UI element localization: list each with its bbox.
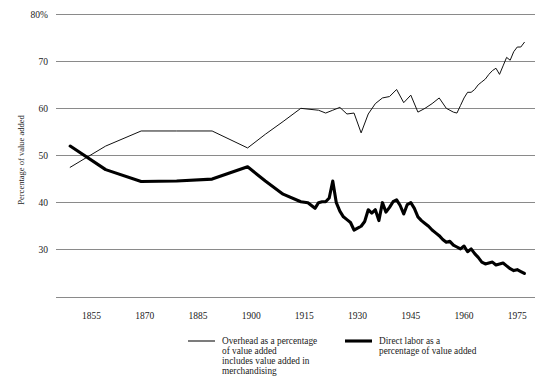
y-tick-50: 50 [39, 151, 49, 161]
x-tick-1900: 1900 [242, 311, 261, 321]
line-chart: 80%7060504030 18551870188519001915193019… [0, 0, 544, 382]
y-tick-80%: 80% [31, 10, 49, 20]
gridlines-group [56, 14, 535, 297]
x-tick-1885: 1885 [188, 311, 207, 321]
x-tick-1855: 1855 [82, 311, 101, 321]
legend-entry-2-line-1: Direct labor as a [379, 336, 440, 346]
y-tick-40: 40 [39, 198, 49, 208]
legend-entry-2-line-2: percentage of value added [379, 346, 477, 356]
x-tick-1945: 1945 [401, 311, 420, 321]
legend-entry-1-line-3: includes value added in [222, 356, 310, 366]
legend-entry-1-line-2: of value added [222, 346, 277, 356]
x-tick-1930: 1930 [348, 311, 367, 321]
legend-entry-1-line-1: Overhead as a percentage [222, 336, 317, 346]
y-axis-tick-labels: 80%7060504030 [31, 10, 49, 256]
y-tick-30: 30 [39, 245, 49, 255]
chart-legend: Overhead as a percentage of value added … [188, 336, 477, 376]
chart-container: 80%7060504030 18551870188519001915193019… [0, 0, 544, 382]
x-tick-1975: 1975 [508, 311, 527, 321]
y-axis-title: Percentage of value added [16, 115, 26, 205]
series-direct-labor-line [70, 146, 524, 273]
x-tick-1915: 1915 [295, 311, 314, 321]
x-tick-1960: 1960 [455, 311, 474, 321]
x-tick-1870: 1870 [135, 311, 154, 321]
x-axis-tick-labels: 185518701885190019151930194519601975 [82, 311, 527, 321]
legend-entry-1-line-4: merchandising [222, 366, 277, 376]
y-tick-70: 70 [39, 57, 49, 67]
y-tick-60: 60 [39, 104, 49, 114]
